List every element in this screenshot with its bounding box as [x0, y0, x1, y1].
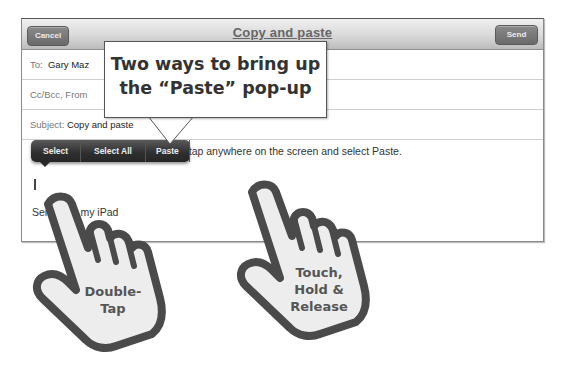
touch-hold-line-2: Hold &: [284, 281, 354, 298]
touch-hold-line-3: Release: [284, 298, 354, 315]
double-tap-line-2: Tap: [78, 300, 148, 317]
select-all-menu-item[interactable]: Select All: [81, 140, 146, 162]
double-tap-line-1: Double-: [78, 283, 148, 300]
text-cursor: [34, 179, 36, 190]
double-tap-label: Double- Tap: [78, 283, 148, 317]
callout-line-1: Two ways to bring up: [105, 52, 326, 76]
popup-pointer: [40, 162, 50, 167]
to-label: To:: [30, 59, 43, 70]
callout-box: Two ways to bring up the “Paste” pop-up: [104, 41, 327, 118]
callout-text: Two ways to bring up the “Paste” pop-up: [105, 52, 326, 100]
cc-bcc-label: Cc/Bcc, From: [30, 80, 88, 109]
to-value: Gary Maz: [48, 59, 89, 70]
callout-line-2: the “Paste” pop-up: [105, 76, 326, 100]
send-button[interactable]: Send: [495, 25, 538, 45]
touch-hold-release-label: Touch, Hold & Release: [284, 264, 354, 315]
subject-value: Copy and paste: [67, 119, 134, 130]
subject-label: Subject:: [30, 119, 64, 130]
pointing-hand-icon: [232, 178, 377, 343]
compose-title: Copy and paste: [22, 25, 543, 40]
touch-hold-line-1: Touch,: [284, 264, 354, 281]
select-menu-item[interactable]: Select: [31, 140, 81, 162]
pointing-hand-icon: [28, 190, 173, 355]
to-field-row: To: Gary Maz: [30, 50, 89, 79]
